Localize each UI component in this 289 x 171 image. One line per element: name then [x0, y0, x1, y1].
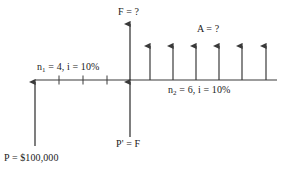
annuity-series-arrows — [150, 46, 266, 80]
period-one-rest: = 4, i = 10% — [46, 61, 100, 72]
present-value-label: P = $100,000 — [4, 152, 59, 163]
annuity-label: A = ? — [197, 23, 219, 34]
period-two-rest: = 6, i = 10% — [177, 84, 231, 95]
cash-flow-timeline-graphic — [0, 0, 289, 171]
period-two-subscript: 2 — [173, 89, 177, 97]
period-one-label: n1 = 4, i = 10% — [37, 61, 99, 72]
future-value-label: F = ? — [118, 6, 139, 17]
present-prime-label: P' = F — [116, 138, 140, 149]
period-one-subscript: 1 — [42, 66, 46, 74]
cash-flow-diagram: F = ? A = ? n1 = 4, i = 10% n2 = 6, i = … — [0, 0, 289, 171]
period-two-label: n2 = 6, i = 10% — [168, 84, 230, 95]
